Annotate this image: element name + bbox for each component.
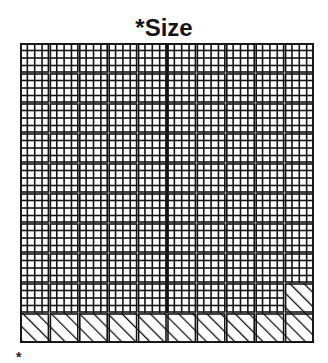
waffle-grid bbox=[20, 43, 314, 343]
grid-cell bbox=[226, 73, 255, 103]
grid-cell bbox=[167, 103, 196, 133]
grid-cell bbox=[167, 223, 196, 253]
grid-cell bbox=[20, 73, 49, 103]
hatched-cell bbox=[108, 313, 137, 343]
grid-cell bbox=[108, 253, 137, 283]
grid-cell bbox=[226, 253, 255, 283]
grid-cell bbox=[196, 103, 225, 133]
grid-cell bbox=[226, 223, 255, 253]
grid-cell bbox=[138, 133, 167, 163]
grid-cell bbox=[226, 283, 255, 313]
grid-cell bbox=[20, 193, 49, 223]
grid-cell bbox=[138, 253, 167, 283]
grid-cell bbox=[49, 253, 78, 283]
grid-cell bbox=[285, 193, 314, 223]
hatched-cell bbox=[196, 313, 225, 343]
grid-cell bbox=[196, 283, 225, 313]
grid-cell bbox=[255, 103, 284, 133]
grid-cell bbox=[108, 163, 137, 193]
grid-cell bbox=[196, 163, 225, 193]
grid-cell bbox=[255, 163, 284, 193]
grid-cell bbox=[196, 43, 225, 73]
grid-cell bbox=[138, 103, 167, 133]
grid-cell bbox=[255, 133, 284, 163]
grid-cell bbox=[196, 223, 225, 253]
grid-cell bbox=[49, 193, 78, 223]
hatched-cell bbox=[285, 283, 314, 313]
grid-cell bbox=[49, 283, 78, 313]
grid-cell bbox=[108, 43, 137, 73]
grid-cell bbox=[49, 133, 78, 163]
grid-cell bbox=[255, 73, 284, 103]
grid-cell bbox=[20, 163, 49, 193]
grid-cell bbox=[108, 193, 137, 223]
grid-cell bbox=[285, 133, 314, 163]
grid-cell bbox=[108, 103, 137, 133]
grid-cell bbox=[49, 43, 78, 73]
hatched-cell bbox=[285, 313, 314, 343]
chart-title: *Size bbox=[0, 14, 328, 42]
grid-cell bbox=[79, 193, 108, 223]
grid-cell bbox=[79, 253, 108, 283]
grid-cell bbox=[167, 73, 196, 103]
grid-cell bbox=[255, 43, 284, 73]
grid-graphic bbox=[20, 43, 314, 343]
bleed-through-text bbox=[70, 0, 270, 8]
hatched-cell bbox=[20, 313, 49, 343]
grid-cell bbox=[108, 283, 137, 313]
grid-cell bbox=[79, 163, 108, 193]
grid-cell bbox=[20, 253, 49, 283]
grid-cell bbox=[108, 133, 137, 163]
grid-cell bbox=[108, 223, 137, 253]
grid-cell bbox=[285, 253, 314, 283]
grid-cell bbox=[79, 133, 108, 163]
grid-cell bbox=[20, 283, 49, 313]
grid-cell bbox=[285, 43, 314, 73]
grid-cell bbox=[285, 163, 314, 193]
grid-cell bbox=[167, 133, 196, 163]
grid-cell bbox=[196, 193, 225, 223]
grid-cell bbox=[138, 43, 167, 73]
grid-cell bbox=[79, 73, 108, 103]
grid-cell bbox=[226, 133, 255, 163]
hatched-cell bbox=[167, 313, 196, 343]
grid-cell bbox=[167, 283, 196, 313]
hatched-cell bbox=[255, 313, 284, 343]
grid-cell bbox=[285, 73, 314, 103]
hatched-cell bbox=[138, 313, 167, 343]
grid-cell bbox=[255, 253, 284, 283]
grid-cell bbox=[226, 43, 255, 73]
grid-cell bbox=[167, 253, 196, 283]
grid-cell bbox=[138, 193, 167, 223]
grid-cell bbox=[196, 73, 225, 103]
footnote-marker: * bbox=[16, 350, 21, 363]
grid-cell bbox=[255, 193, 284, 223]
grid-cell bbox=[49, 163, 78, 193]
grid-cell bbox=[49, 73, 78, 103]
grid-cell bbox=[285, 223, 314, 253]
grid-cell bbox=[285, 103, 314, 133]
grid-cell bbox=[167, 193, 196, 223]
grid-cell bbox=[79, 43, 108, 73]
hatched-cell bbox=[49, 313, 78, 343]
grid-cell bbox=[196, 253, 225, 283]
grid-cell bbox=[138, 73, 167, 103]
grid-cell bbox=[20, 103, 49, 133]
grid-cell bbox=[79, 283, 108, 313]
grid-cell bbox=[226, 103, 255, 133]
grid-cell bbox=[20, 223, 49, 253]
hatched-cell bbox=[79, 313, 108, 343]
grid-cell bbox=[49, 223, 78, 253]
grid-cell bbox=[196, 133, 225, 163]
hatched-cell bbox=[226, 313, 255, 343]
grid-cell bbox=[226, 163, 255, 193]
grid-cell bbox=[79, 223, 108, 253]
grid-cell bbox=[255, 283, 284, 313]
grid-cell bbox=[138, 283, 167, 313]
grid-cell bbox=[20, 43, 49, 73]
grid-cell bbox=[108, 73, 137, 103]
grid-cell bbox=[20, 133, 49, 163]
grid-cell bbox=[255, 223, 284, 253]
grid-cell bbox=[167, 163, 196, 193]
grid-cell bbox=[138, 223, 167, 253]
